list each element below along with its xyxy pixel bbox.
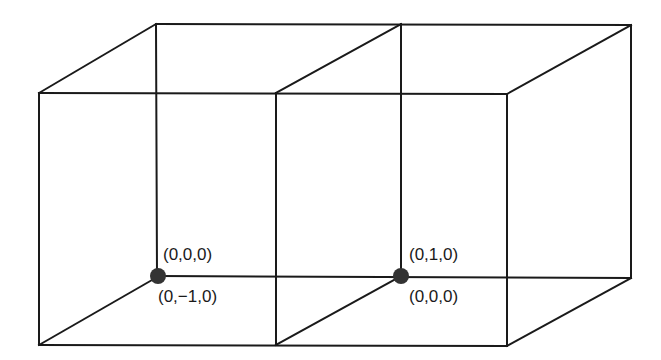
point-2-upper-label: (0,1,0) (409, 245, 458, 265)
point-2-lower-label: (0,0,0) (409, 287, 458, 307)
back-top-edge (156, 24, 631, 25)
top-right-diagonal (507, 25, 631, 94)
point-marker-2 (393, 268, 409, 284)
front-top-edge (39, 93, 507, 94)
point-1-upper-label: (0,0,0) (163, 245, 212, 265)
top-left-diagonal (39, 24, 156, 93)
point-1-lower-label: (0,−1,0) (158, 287, 217, 307)
front-bottom-edge (39, 345, 507, 346)
bottom-right-diagonal (507, 278, 631, 346)
point-marker-1 (150, 268, 166, 284)
two-cubes-diagram (0, 0, 661, 360)
bottom-middle-diagonal (276, 276, 401, 345)
bottom-left-diagonal (39, 276, 159, 345)
top-middle-diagonal (276, 24, 401, 93)
back-left-vertical (156, 24, 157, 276)
